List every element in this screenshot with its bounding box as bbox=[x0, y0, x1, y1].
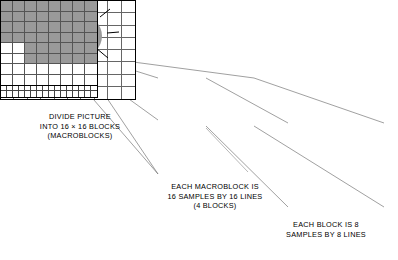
block-cell bbox=[13, 54, 25, 65]
block-cell bbox=[13, 22, 25, 33]
block-cell bbox=[73, 22, 85, 33]
block-cell bbox=[61, 43, 73, 54]
block-cell bbox=[37, 54, 49, 65]
block-grid bbox=[0, 0, 98, 86]
block-cell bbox=[13, 33, 25, 44]
block-cell bbox=[85, 43, 97, 54]
block-cell bbox=[25, 12, 37, 23]
diagram-canvas: DIVIDE PICTURE INTO 16 × 16 BLOCKS (MACR… bbox=[0, 0, 398, 260]
block-cell bbox=[1, 12, 13, 23]
block-cell bbox=[49, 75, 61, 86]
block-cell bbox=[37, 12, 49, 23]
block-cell bbox=[37, 1, 49, 12]
block-cell bbox=[37, 22, 49, 33]
block-cell bbox=[49, 54, 61, 65]
block-cell bbox=[25, 43, 37, 54]
block-cell bbox=[1, 22, 13, 33]
block-cell bbox=[49, 12, 61, 23]
block-cell bbox=[61, 33, 73, 44]
block-cell bbox=[85, 75, 97, 86]
block-cell bbox=[37, 75, 49, 86]
block-cell bbox=[73, 43, 85, 54]
block-cell bbox=[85, 64, 97, 75]
block-cell bbox=[73, 33, 85, 44]
block-cell bbox=[61, 54, 73, 65]
block-cell bbox=[25, 33, 37, 44]
block-cell bbox=[37, 43, 49, 54]
block-cell bbox=[25, 75, 37, 86]
block-cell bbox=[61, 64, 73, 75]
block-cell bbox=[49, 22, 61, 33]
block-cell bbox=[25, 22, 37, 33]
block-cell bbox=[73, 12, 85, 23]
block-cell bbox=[49, 33, 61, 44]
block-cell bbox=[13, 43, 25, 54]
block-cell bbox=[61, 1, 73, 12]
block-cell bbox=[61, 22, 73, 33]
block-cell bbox=[73, 75, 85, 86]
block-cell bbox=[61, 75, 73, 86]
caption-each-macroblock: EACH MACROBLOCK IS 16 SAMPLES BY 16 LINE… bbox=[140, 182, 290, 211]
caption-each-block: EACH BLOCK IS 8 SAMPLES BY 8 LINES bbox=[256, 220, 396, 239]
block-cell bbox=[13, 12, 25, 23]
block-cell bbox=[1, 33, 13, 44]
block-cell bbox=[37, 33, 49, 44]
block-cell bbox=[13, 75, 25, 86]
block-cell bbox=[25, 54, 37, 65]
block-cell bbox=[1, 54, 13, 65]
block-cell bbox=[61, 12, 73, 23]
block-cell bbox=[73, 64, 85, 75]
block-cell bbox=[1, 75, 13, 86]
block-cell bbox=[49, 64, 61, 75]
block-cell bbox=[1, 43, 13, 54]
block-cell bbox=[85, 12, 97, 23]
block-cell bbox=[1, 64, 13, 75]
block-cell bbox=[85, 22, 97, 33]
block-cell bbox=[85, 33, 97, 44]
block-cell bbox=[85, 54, 97, 65]
block-cell bbox=[49, 1, 61, 12]
caption-divide-picture: DIVIDE PICTURE INTO 16 × 16 BLOCKS (MACR… bbox=[10, 112, 150, 141]
block-cell bbox=[25, 1, 37, 12]
macroblock-cell bbox=[91, 91, 97, 97]
block-cell bbox=[1, 1, 13, 12]
block-cell bbox=[13, 1, 25, 12]
block-cell bbox=[73, 1, 85, 12]
block-cell bbox=[37, 64, 49, 75]
block-cell bbox=[73, 54, 85, 65]
block-cell bbox=[13, 64, 25, 75]
block-cell bbox=[85, 1, 97, 12]
block-cell bbox=[49, 43, 61, 54]
block-cell bbox=[25, 64, 37, 75]
